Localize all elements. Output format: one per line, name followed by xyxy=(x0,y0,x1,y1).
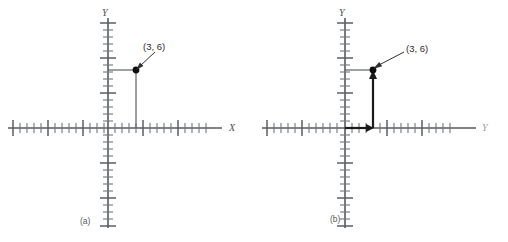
panel-a: (3, 6) X Y (a) xyxy=(0,0,254,242)
panel-b: (3, 6) Y Y (b) xyxy=(254,0,508,242)
label-leader-a xyxy=(136,52,155,70)
label-leader-b xyxy=(373,52,404,69)
x-axis-label-b: Y xyxy=(482,122,489,133)
y-axis-label-b: Y xyxy=(339,7,346,18)
panel-caption-a: (a) xyxy=(80,216,91,226)
panel-a-plot: (3, 6) X Y (a) xyxy=(0,0,254,242)
coordinate-plane-figure: (3, 6) X Y (a) xyxy=(0,0,508,242)
panel-caption-b: (b) xyxy=(330,214,341,224)
y-component-vector-b xyxy=(369,70,377,128)
point-label-a: (3, 6) xyxy=(143,41,165,52)
x-axis-label-a: X xyxy=(228,122,236,133)
panel-b-plot: (3, 6) Y Y (b) xyxy=(254,0,508,242)
point-label-b: (3, 6) xyxy=(406,43,428,54)
y-axis-label-a: Y xyxy=(102,7,109,18)
